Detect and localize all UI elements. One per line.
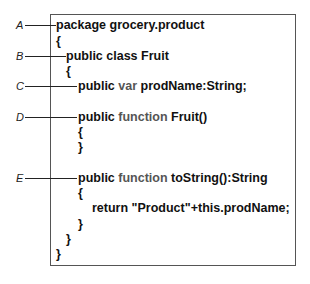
code-line: { bbox=[66, 64, 71, 78]
code-line: return "Product"+this.prodName; bbox=[92, 201, 290, 215]
code-text: } bbox=[56, 247, 61, 261]
callout-leader-line bbox=[25, 56, 66, 57]
code-text: prodName:String; bbox=[137, 79, 247, 93]
callout-label-b: B bbox=[16, 50, 23, 62]
code-text: public bbox=[78, 79, 118, 93]
code-line: { bbox=[78, 186, 83, 200]
code-line: public var prodName:String; bbox=[78, 79, 247, 93]
code-text: public bbox=[78, 110, 118, 124]
code-text: } bbox=[78, 140, 83, 154]
code-text: public bbox=[78, 171, 118, 185]
code-line: { bbox=[78, 125, 83, 139]
code-text: package grocery.product bbox=[56, 18, 204, 32]
code-text: } bbox=[66, 232, 71, 246]
callout-label-c: C bbox=[16, 80, 24, 92]
callout-leader-line bbox=[25, 178, 77, 179]
callout-label-d: D bbox=[16, 111, 24, 123]
code-text: { bbox=[56, 34, 61, 48]
callout-leader-line bbox=[25, 86, 77, 87]
code-text: return "Product"+this.prodName; bbox=[92, 201, 290, 215]
code-line: package grocery.product bbox=[56, 18, 204, 32]
code-line: } bbox=[78, 140, 83, 154]
code-text: { bbox=[78, 186, 83, 200]
code-line: public class Fruit bbox=[66, 49, 169, 63]
callout-leader-line bbox=[25, 25, 56, 26]
code-text: { bbox=[78, 125, 83, 139]
code-text: Fruit() bbox=[168, 110, 208, 124]
code-line: } bbox=[66, 232, 71, 246]
code-text: public class Fruit bbox=[66, 49, 169, 63]
code-line: } bbox=[78, 217, 83, 231]
code-line: public function Fruit() bbox=[78, 110, 207, 124]
code-line: { bbox=[56, 34, 61, 48]
code-line: } bbox=[56, 247, 61, 261]
code-text: toString():String bbox=[168, 171, 268, 185]
code-line: public function toString():String bbox=[78, 171, 268, 185]
callout-label-a: A bbox=[16, 19, 23, 31]
code-keyword: var bbox=[118, 79, 137, 93]
callout-label-e: E bbox=[16, 172, 23, 184]
callout-leader-line bbox=[25, 117, 77, 118]
code-text: } bbox=[78, 217, 83, 231]
code-keyword: function bbox=[118, 171, 167, 185]
code-text: { bbox=[66, 64, 71, 78]
code-keyword: function bbox=[118, 110, 167, 124]
